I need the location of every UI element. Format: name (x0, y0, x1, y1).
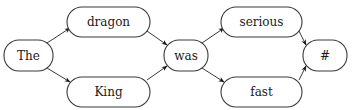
node-label: was (174, 49, 198, 63)
edge-was-to-fast (202, 68, 224, 82)
edge-was-to-serious (202, 28, 224, 43)
node-fast: fast (221, 77, 302, 107)
word-lattice-diagram: ThedragonKingwasseriousfast# (0, 0, 356, 110)
edge-the-to-dragon (47, 28, 70, 43)
edge-fast-to-end (299, 66, 306, 80)
node-dragon: dragon (67, 7, 150, 37)
edge-the-to-king (47, 68, 70, 82)
node-serious: serious (221, 7, 302, 37)
node-label: serious (240, 15, 284, 29)
node-king: King (67, 77, 150, 107)
node-label: dragon (87, 15, 130, 29)
node-label: King (94, 85, 123, 99)
node-end: # (303, 40, 347, 71)
node-label: fast (250, 85, 273, 99)
edge-dragon-to-was (147, 31, 167, 45)
node-label: # (320, 49, 330, 63)
nodes-group: ThedragonKingwasseriousfast# (4, 7, 347, 107)
node-the: The (4, 40, 53, 71)
edge-serious-to-end (299, 31, 306, 45)
node-was: was (164, 40, 208, 71)
edge-king-to-was (147, 66, 167, 80)
node-label: The (17, 49, 40, 63)
